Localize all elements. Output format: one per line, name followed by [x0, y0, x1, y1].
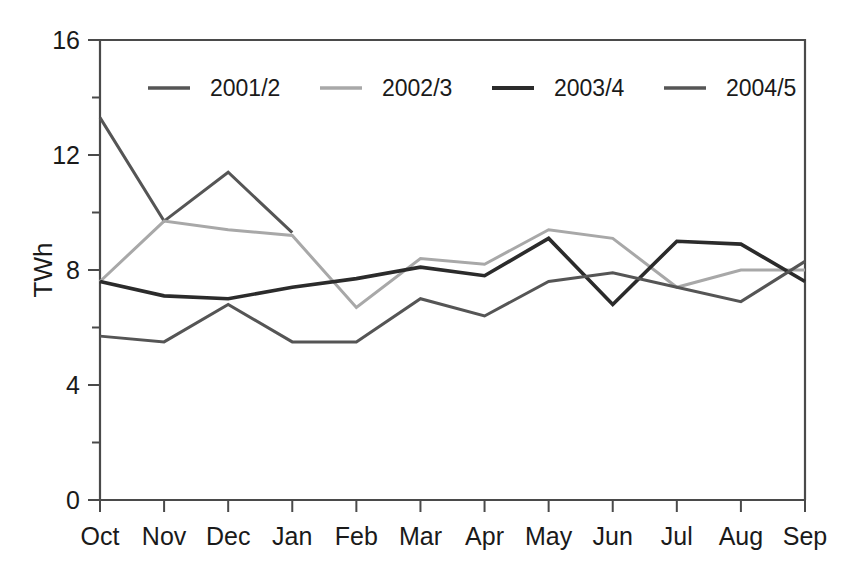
- y-axis-title: TWh: [28, 243, 58, 298]
- legend-label-2002-3: 2002/3: [382, 75, 452, 101]
- series-line-2002-3: [100, 221, 805, 307]
- series-line-2001-2: [100, 118, 292, 233]
- y-tick-label: 4: [66, 371, 80, 399]
- x-tick-label: Aug: [719, 522, 763, 550]
- x-tick-label: Jan: [272, 522, 312, 550]
- chart-legend: 2001/22002/32003/42004/5: [148, 75, 796, 101]
- x-tick-label: Sep: [783, 522, 827, 550]
- legend-label-2003-4: 2003/4: [554, 75, 625, 101]
- legend-label-2004-5: 2004/5: [726, 75, 796, 101]
- x-tick-label: May: [525, 522, 573, 550]
- axes-group: [88, 40, 805, 512]
- x-tick-label: Jul: [661, 522, 693, 550]
- series-line-2004-5: [100, 261, 805, 342]
- y-tick-label: 8: [66, 256, 80, 284]
- line-chart: 2001/22002/32003/42004/5 0481216OctNovDe…: [0, 0, 864, 566]
- axis-labels-group: 0481216OctNovDecJanFebMarAprMayJunJulAug…: [28, 26, 827, 550]
- legend-label-2001-2: 2001/2: [210, 75, 280, 101]
- x-tick-label: Dec: [206, 522, 250, 550]
- x-tick-label: Mar: [399, 522, 442, 550]
- chart-container: 2001/22002/32003/42004/5 0481216OctNovDe…: [0, 0, 864, 566]
- series-line-2003-4: [100, 238, 805, 304]
- series-group: [100, 118, 805, 342]
- x-tick-label: Apr: [465, 522, 504, 550]
- x-tick-label: Nov: [142, 522, 187, 550]
- y-tick-label: 16: [52, 26, 80, 54]
- x-tick-label: Jun: [593, 522, 633, 550]
- x-tick-label: Oct: [81, 522, 120, 550]
- y-tick-label: 0: [66, 486, 80, 514]
- x-tick-label: Feb: [335, 522, 378, 550]
- y-tick-label: 12: [52, 141, 80, 169]
